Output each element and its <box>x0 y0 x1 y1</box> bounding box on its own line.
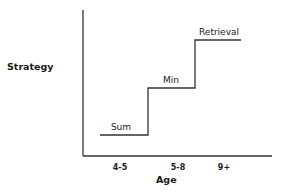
chart-plot-area <box>0 0 282 194</box>
x-tick-9-plus: 9+ <box>218 163 230 172</box>
x-tick-4-5: 4-5 <box>113 163 127 172</box>
x-tick-5-8: 5-8 <box>171 163 185 172</box>
step-label-retrieval: Retrieval <box>199 27 239 37</box>
x-axis-label: Age <box>156 174 177 185</box>
y-axis-label: Strategy <box>7 61 53 72</box>
step-chart: Strategy Sum Min Retrieval 4-5 5-8 9+ Ag… <box>0 0 282 194</box>
strategy-step-line <box>100 40 241 135</box>
step-label-min: Min <box>163 75 179 85</box>
step-label-sum: Sum <box>111 122 131 132</box>
